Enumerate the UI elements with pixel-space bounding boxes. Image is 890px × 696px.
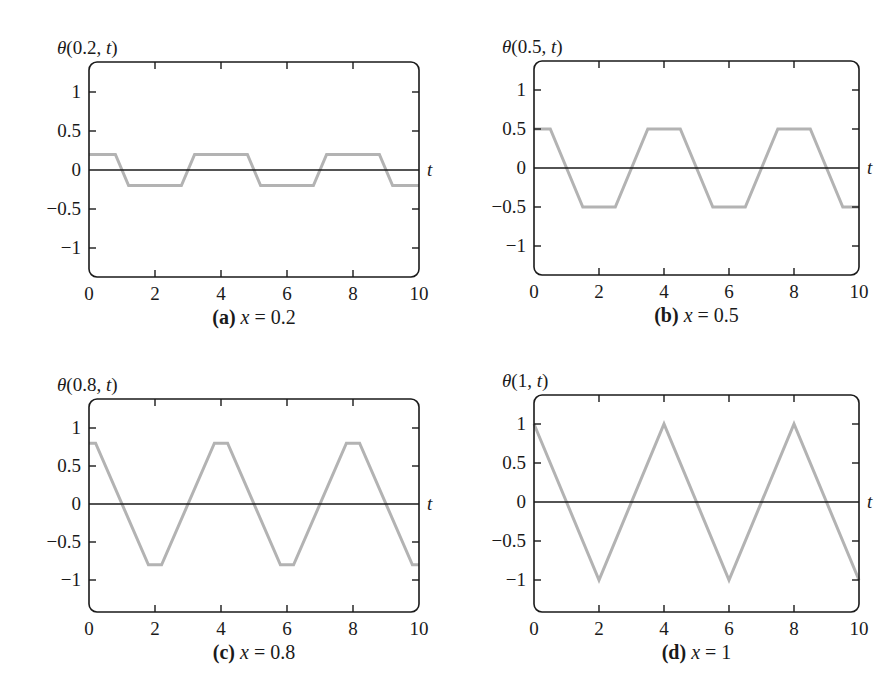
y-tick-label: 0 — [517, 491, 527, 512]
y-tick-label: −0.5 — [47, 531, 81, 552]
x-tick-label: 0 — [84, 283, 94, 304]
y-tick-label: 0.5 — [57, 120, 81, 141]
y-tick-label: 0.5 — [502, 118, 526, 139]
panel-caption: (a) x = 0.2 — [212, 306, 296, 329]
x-axis-label: t — [427, 159, 433, 180]
x-tick-label: 2 — [150, 283, 160, 304]
x-tick-label: 6 — [724, 618, 734, 639]
y-tick-label: 0 — [72, 159, 82, 180]
panel-a: 024681010.50−0.5−1θ(0.2, t)t(a) x = 0.2 — [47, 37, 433, 329]
x-tick-label: 6 — [282, 618, 292, 639]
y-tick-label: 0.5 — [57, 455, 81, 476]
y-tick-label: −1 — [506, 569, 526, 590]
x-tick-label: 8 — [789, 618, 799, 639]
x-tick-label: 8 — [789, 281, 799, 302]
figure-canvas: 024681010.50−0.5−1θ(0.2, t)t(a) x = 0.20… — [0, 0, 890, 696]
x-tick-label: 10 — [850, 618, 869, 639]
y-tick-label: 0.5 — [502, 452, 526, 473]
x-tick-label: 4 — [659, 618, 669, 639]
x-axis-label: t — [867, 157, 873, 178]
x-tick-label: 0 — [529, 281, 539, 302]
y-tick-label: −0.5 — [47, 198, 81, 219]
y-tick-label: −1 — [506, 235, 526, 256]
x-tick-label: 8 — [348, 283, 358, 304]
x-tick-label: 10 — [410, 283, 429, 304]
x-tick-label: 6 — [282, 283, 292, 304]
panel-b: 024681010.50−0.5−1θ(0.5, t)t(b) x = 0.5 — [492, 36, 873, 327]
y-tick-label: 0 — [517, 157, 527, 178]
y-tick-label: 1 — [72, 81, 82, 102]
panel-caption: (c) x = 0.8 — [213, 641, 295, 664]
x-tick-label: 4 — [216, 618, 226, 639]
x-tick-label: 0 — [84, 618, 94, 639]
x-tick-label: 10 — [410, 618, 429, 639]
panel-c: 024681010.50−0.5−1θ(0.8, t)t(c) x = 0.8 — [47, 374, 433, 664]
x-tick-label: 2 — [594, 618, 604, 639]
x-tick-label: 8 — [348, 618, 358, 639]
y-tick-label: 0 — [72, 493, 82, 514]
panel-d: 024681010.50−0.5−1θ(1, t)t(d) x = 1 — [492, 370, 873, 664]
y-axis-label: θ(0.5, t) — [502, 36, 563, 58]
x-tick-label: 4 — [659, 281, 669, 302]
x-tick-label: 10 — [850, 281, 869, 302]
x-axis-label: t — [867, 491, 873, 512]
y-tick-label: −0.5 — [492, 196, 526, 217]
x-tick-label: 4 — [216, 283, 226, 304]
panel-caption: (b) x = 0.5 — [654, 304, 739, 327]
x-tick-label: 2 — [594, 281, 604, 302]
y-tick-label: 1 — [517, 413, 527, 434]
y-axis-label: θ(0.8, t) — [57, 374, 118, 396]
x-tick-label: 6 — [724, 281, 734, 302]
y-axis-label: θ(1, t) — [502, 370, 548, 392]
y-tick-label: −1 — [61, 237, 81, 258]
y-tick-label: 1 — [72, 417, 82, 438]
y-tick-label: 1 — [517, 79, 527, 100]
y-tick-label: −0.5 — [492, 530, 526, 551]
x-axis-label: t — [427, 493, 433, 514]
figure: 024681010.50−0.5−1θ(0.2, t)t(a) x = 0.20… — [0, 0, 890, 696]
x-tick-label: 2 — [150, 618, 160, 639]
x-tick-label: 0 — [529, 618, 539, 639]
panel-caption: (d) x = 1 — [662, 641, 732, 664]
y-axis-label: θ(0.2, t) — [57, 37, 118, 59]
y-tick-label: −1 — [61, 569, 81, 590]
